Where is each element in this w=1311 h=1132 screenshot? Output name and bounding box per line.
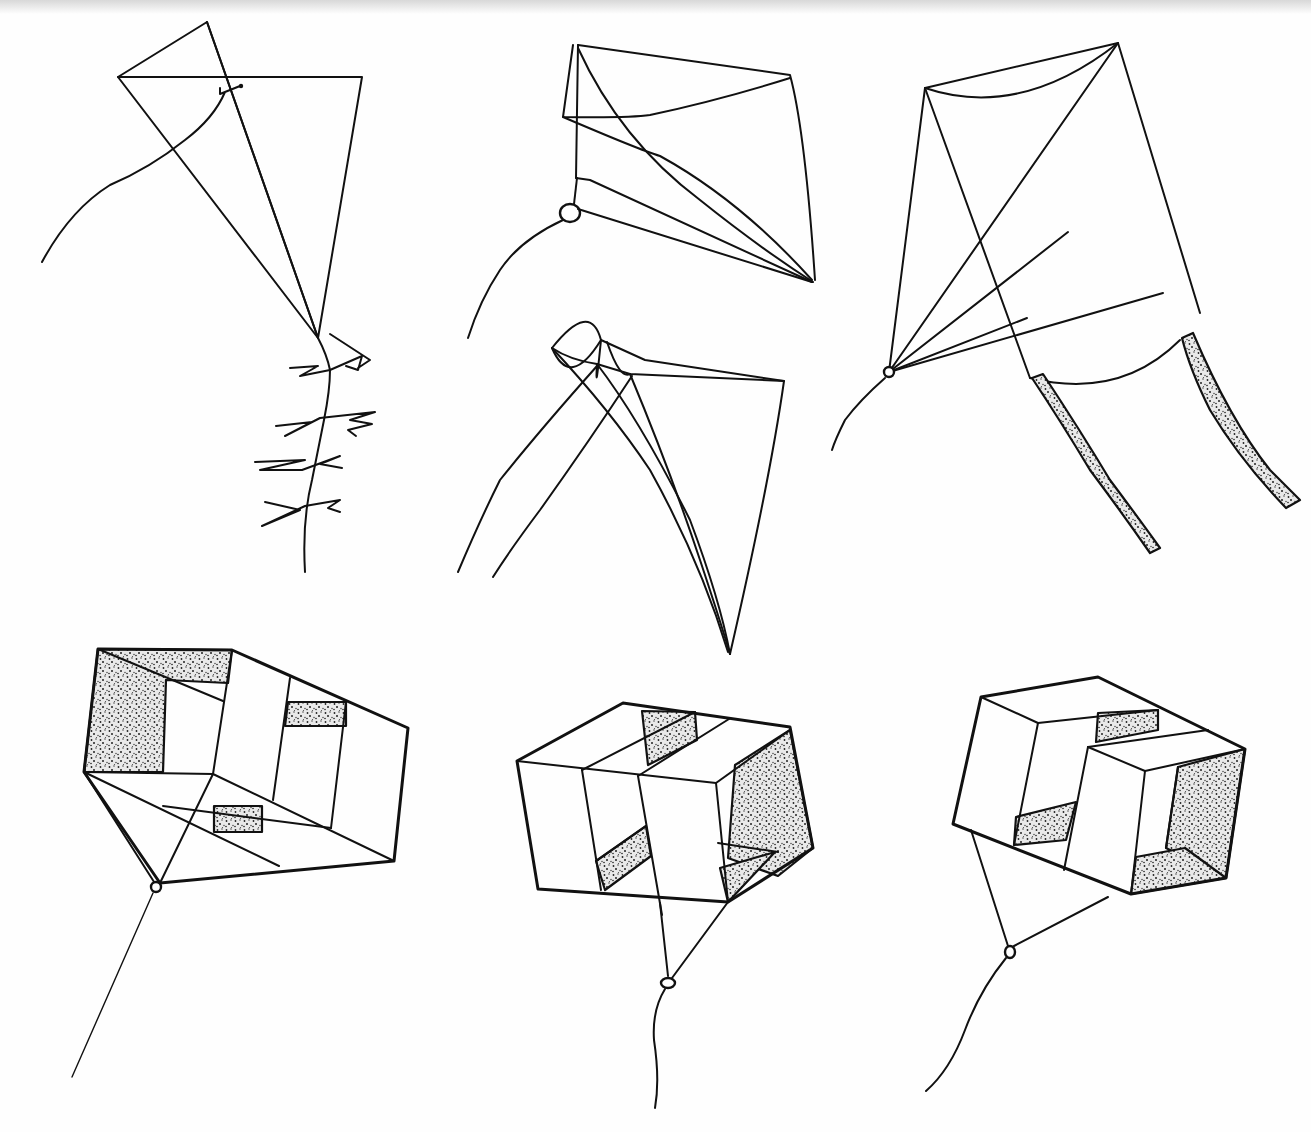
kite-diamond xyxy=(42,22,375,572)
kite-box-center xyxy=(517,703,813,1108)
kite-drawing xyxy=(0,0,1311,1132)
kite-streamers xyxy=(832,43,1300,553)
kite-illustration: Hand-drawn kite types xyxy=(0,0,1311,1132)
kite-box-right xyxy=(926,677,1245,1091)
kite-sled-middle xyxy=(458,322,784,654)
kite-box-left xyxy=(72,649,408,1077)
kite-sled-top xyxy=(468,45,815,338)
